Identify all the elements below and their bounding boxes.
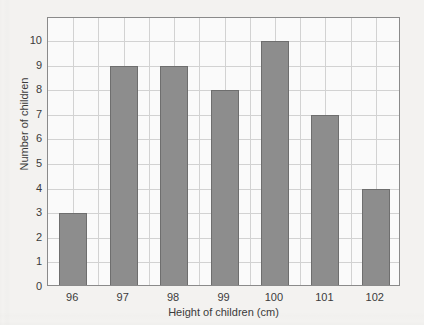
y-tick-label: 2 bbox=[4, 232, 42, 243]
gridline-horizontal bbox=[48, 66, 399, 67]
x-tick-label: 97 bbox=[103, 291, 143, 303]
gridline-vertical bbox=[351, 18, 352, 285]
bar bbox=[362, 189, 390, 286]
gridline-vertical bbox=[98, 18, 99, 285]
x-axis-title: Height of children (cm) bbox=[47, 306, 400, 318]
y-tick-label: 3 bbox=[4, 207, 42, 218]
bar bbox=[160, 66, 188, 286]
bar bbox=[211, 90, 239, 286]
x-tick-label: 100 bbox=[254, 291, 294, 303]
bar bbox=[110, 66, 138, 286]
bar bbox=[59, 213, 87, 286]
bar-chart: 012345678910 96979899100101102 Number of… bbox=[0, 0, 424, 325]
x-tick-label: 96 bbox=[52, 291, 92, 303]
plot-area bbox=[47, 17, 400, 286]
y-tick-label: 0 bbox=[4, 281, 42, 292]
x-tick-label: 102 bbox=[355, 291, 395, 303]
bar bbox=[261, 41, 289, 286]
x-tick-label: 101 bbox=[304, 291, 344, 303]
gridline-vertical bbox=[149, 18, 150, 285]
gridline-vertical bbox=[300, 18, 301, 285]
gridline-vertical bbox=[250, 18, 251, 285]
gridline-horizontal bbox=[48, 41, 399, 42]
y-axis-title: Number of children bbox=[18, 54, 30, 194]
y-tick-label: 10 bbox=[4, 35, 42, 46]
y-tick-label: 1 bbox=[4, 256, 42, 267]
gridline-vertical bbox=[199, 18, 200, 285]
x-tick-label: 99 bbox=[204, 291, 244, 303]
x-tick-label: 98 bbox=[153, 291, 193, 303]
bar bbox=[311, 115, 339, 286]
